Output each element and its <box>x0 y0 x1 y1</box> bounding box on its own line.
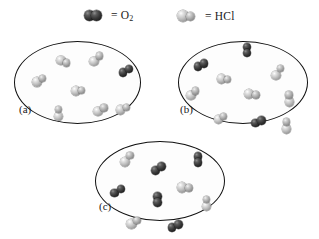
hcl-molecule-icon <box>177 8 201 24</box>
legend-label-hcl: = HCl <box>205 10 235 22</box>
legend-item-hcl: = HCl <box>177 6 235 26</box>
legend-item-o2: = O2 <box>83 6 133 26</box>
legend-sub-o2: 2 <box>129 14 133 23</box>
panel-c-label: (c) <box>99 200 111 212</box>
panel-a-contents <box>15 42 140 123</box>
panel-c-contents <box>96 142 224 220</box>
panel-a-label: (a) <box>19 103 31 115</box>
panel-a-oval <box>14 41 141 124</box>
legend-label-o2: = O2 <box>111 9 133 23</box>
panel-b-oval <box>178 41 308 124</box>
o2-molecule-icon <box>83 8 107 24</box>
figure-root: = O2 = HCl <box>0 0 319 239</box>
panel-b-label: (b) <box>180 103 193 115</box>
legend-text-o2: = O <box>111 9 129 21</box>
legend-text-hcl: = HCl <box>205 10 235 22</box>
panel-b-contents <box>179 42 307 123</box>
panel-c-oval <box>95 141 225 221</box>
